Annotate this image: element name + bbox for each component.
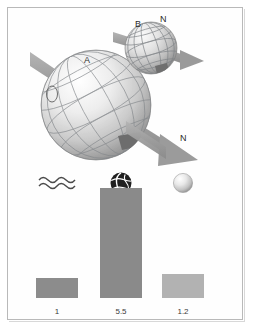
label-sphere-b: B bbox=[135, 19, 141, 29]
bar-column-1 bbox=[36, 188, 78, 298]
sphere-diagram: A B N N bbox=[8, 8, 242, 176]
bar-column-2 bbox=[100, 188, 142, 298]
bar-value-3: 1.2 bbox=[162, 307, 204, 316]
sphere-diagram-svg bbox=[8, 8, 242, 176]
bar-value-2: 5.5 bbox=[100, 307, 142, 316]
bar-chart: 1 5.5 1.2 bbox=[8, 170, 242, 320]
bar-1 bbox=[36, 278, 78, 298]
figure-container: A B N N bbox=[0, 0, 253, 329]
bar-2 bbox=[100, 188, 142, 298]
label-north-pole-small: N bbox=[160, 14, 167, 24]
bar-value-1: 1 bbox=[36, 307, 78, 316]
label-sphere-a: A bbox=[84, 55, 90, 65]
bar-3 bbox=[162, 274, 204, 298]
bar-column-3 bbox=[162, 188, 204, 298]
label-north-pole-large: N bbox=[180, 133, 187, 143]
